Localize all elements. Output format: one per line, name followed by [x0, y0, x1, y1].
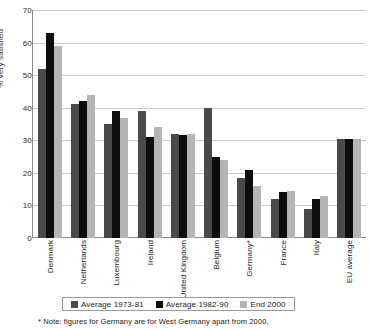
bar [138, 111, 146, 238]
bar [146, 137, 154, 238]
y-axis-tick-label: 10 [0, 201, 32, 210]
x-axis-tick-label: Belgium [212, 240, 221, 270]
bar [353, 139, 361, 238]
chart-footnote: * Note: figures for Germany are for West… [38, 317, 269, 326]
bar [245, 170, 253, 238]
x-axis-label-cell: Denmark [33, 240, 66, 292]
x-axis-labels: DenmarkNetherlandsLuxembourgIrelandUnite… [33, 240, 366, 292]
bar [279, 192, 287, 238]
x-axis-tick-label: Luxembourg [112, 240, 121, 285]
bar-group [233, 10, 266, 238]
bar [38, 69, 46, 238]
x-axis-label-cell: EU average [333, 240, 366, 292]
bar [54, 46, 62, 238]
legend-label: Average 1982-90 [166, 300, 229, 309]
legend-swatch [156, 301, 163, 308]
x-axis-tick-label: Ireland [145, 240, 154, 265]
bar-group [333, 10, 366, 238]
x-axis-tick-label: Italy [312, 240, 321, 255]
x-axis-tick-label: United Kingdom [178, 240, 187, 298]
x-axis-label-cell: Netherlands [66, 240, 99, 292]
y-axis-tick-label: 20 [0, 168, 32, 177]
bar-group [266, 10, 299, 238]
x-axis-tick-label: Denmark [45, 240, 54, 273]
y-axis-tick-label: 60 [0, 38, 32, 47]
bar [187, 134, 195, 238]
y-axis-tick-label: 0 [0, 234, 32, 243]
legend-item: Average 1973-81 [71, 300, 144, 309]
bar-group [199, 10, 232, 238]
bar-groups [33, 10, 366, 238]
chart-legend: Average 1973-81Average 1982-90End 2000 [62, 297, 295, 311]
x-axis-tick-label: France [278, 240, 287, 266]
bar-group [166, 10, 199, 238]
bar-group [299, 10, 332, 238]
x-axis-label-cell: Germany* [233, 240, 266, 292]
legend-label: End 2000 [250, 300, 285, 309]
bar [304, 209, 312, 238]
y-axis-tick-label: 30 [0, 136, 32, 145]
bar-group [66, 10, 99, 238]
bar [337, 139, 345, 238]
bar-group [133, 10, 166, 238]
y-axis-tick-label: 70 [0, 6, 32, 15]
x-axis-label-cell: United Kingdom [166, 240, 199, 292]
y-axis-tick-label: 40 [0, 103, 32, 112]
bar [46, 33, 54, 238]
bar [112, 111, 120, 238]
x-axis-label-cell: France [266, 240, 299, 292]
bar [87, 95, 95, 238]
bar-group [33, 10, 66, 238]
bar [79, 101, 87, 238]
legend-item: End 2000 [240, 300, 285, 309]
x-axis-label-cell: Luxembourg [100, 240, 133, 292]
bar [154, 127, 162, 238]
legend-swatch [240, 301, 247, 308]
x-axis-label-cell: Belgium [199, 240, 232, 292]
bar [71, 104, 79, 238]
chart-screenshot: % very satisfied DenmarkNetherlandsLuxem… [0, 0, 372, 330]
bar [204, 108, 212, 238]
bar [253, 186, 261, 238]
legend-swatch [71, 301, 78, 308]
bar [120, 118, 128, 239]
bar [220, 160, 228, 238]
x-axis-tick-label: Netherlands [78, 240, 87, 284]
x-axis-label-cell: Ireland [133, 240, 166, 292]
bar-group [100, 10, 133, 238]
bar [271, 199, 279, 238]
x-axis-tick-label: EU average [345, 240, 354, 283]
y-axis-tick-label: 50 [0, 71, 32, 80]
bar [312, 199, 320, 238]
x-axis-tick-label: Germany* [245, 240, 254, 277]
bar [179, 135, 187, 238]
bar [320, 196, 328, 238]
bar [212, 157, 220, 238]
bar [237, 178, 245, 238]
bar [171, 134, 179, 238]
legend-label: Average 1973-81 [81, 300, 144, 309]
legend-item: Average 1982-90 [156, 300, 229, 309]
bar [287, 191, 295, 238]
x-axis-label-cell: Italy [299, 240, 332, 292]
bar [104, 124, 112, 238]
bar [345, 139, 353, 238]
